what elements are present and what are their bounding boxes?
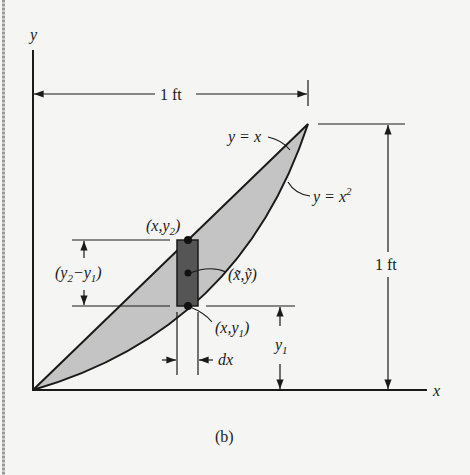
- x-axis-label: x: [432, 382, 440, 399]
- strip-height-label: (y2−y1): [55, 264, 102, 284]
- height-dimension-label: 1 ft: [375, 256, 397, 273]
- parabola-label: y = x2: [311, 185, 352, 206]
- bottom-point-label: (x,y1): [215, 319, 249, 339]
- figure-canvas: y x 1 ft 1 ft y = x y = x2 (x,y2) (x̃,ỹ)…: [0, 0, 470, 475]
- top-point-label: (x,y2): [146, 217, 180, 237]
- line-label: y = x: [226, 128, 261, 146]
- point-top: [184, 236, 192, 244]
- shaded-region: [33, 124, 308, 390]
- centroid-label: (x̃,ỹ): [228, 266, 257, 284]
- point-bottom: [184, 302, 192, 310]
- dx-label: dx: [218, 351, 233, 368]
- width-dimension-label: 1 ft: [160, 86, 182, 103]
- area-diagram: y x 1 ft 1 ft y = x y = x2 (x,y2) (x̃,ỹ)…: [0, 0, 470, 475]
- y-axis-label: y: [28, 26, 38, 44]
- y1-label: y1: [273, 336, 288, 356]
- figure-caption: (b): [215, 428, 234, 446]
